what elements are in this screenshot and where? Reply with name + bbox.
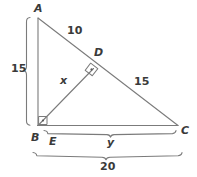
bracket-bottom-20 — [33, 153, 182, 160]
measure-label-bd: x — [60, 75, 67, 86]
vertex-label-d: D — [94, 47, 103, 58]
right-angle-marker-d — [85, 63, 98, 76]
vertex-label-a: A — [34, 3, 43, 14]
vertex-label-e: E — [49, 136, 57, 147]
measure-label-ec: y — [107, 137, 114, 148]
measure-label-ab: 15 — [11, 63, 26, 74]
measure-label-bc-total: 20 — [100, 161, 115, 172]
vertex-label-b: B — [31, 132, 39, 143]
geometry-diagram-canvas: A B C D E 15 10 15 x y 20 — [0, 0, 197, 177]
segment-ac — [38, 18, 178, 126]
triangle-figure-svg — [0, 0, 197, 177]
measure-label-dc: 15 — [134, 76, 149, 87]
measure-label-ad: 10 — [67, 25, 82, 36]
vertex-label-c: C — [181, 125, 189, 136]
